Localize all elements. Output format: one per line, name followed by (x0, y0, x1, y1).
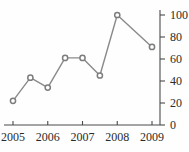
data-point-marker (10, 98, 15, 103)
y-axis-tick-label: 100 (170, 9, 188, 21)
data-point-marker (63, 55, 68, 60)
data-series (10, 12, 154, 103)
x-axis-tick-label: 2006 (36, 131, 60, 143)
line-chart: 020406080100 20052006200720082009 (0, 0, 189, 152)
y-axis-tick-label: 40 (170, 75, 182, 87)
data-point-marker (80, 55, 85, 60)
data-point-marker (28, 75, 33, 80)
y-axis-tick-label: 0 (170, 119, 176, 131)
x-axis-tick-label: 2007 (71, 131, 95, 143)
data-point-marker (149, 44, 154, 49)
y-axis-tick-label: 20 (170, 97, 182, 109)
x-axis-tick-label: 2005 (1, 131, 25, 143)
y-axis-tick-label: 80 (170, 31, 182, 43)
x-axis-tick-label: 2009 (140, 131, 164, 143)
x-axis-tick-label: 2008 (105, 131, 129, 143)
axes (4, 10, 165, 125)
data-point-marker (45, 85, 50, 90)
y-axis-tick-label: 60 (170, 53, 182, 65)
data-point-marker (115, 12, 120, 17)
data-point-marker (97, 73, 102, 78)
